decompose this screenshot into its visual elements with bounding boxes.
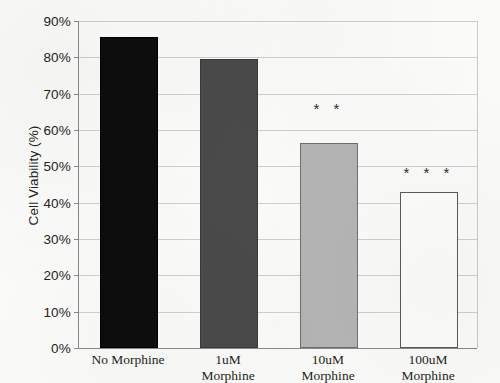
y-tick-mark — [74, 275, 79, 276]
y-tick-mark — [74, 348, 79, 349]
bar — [200, 59, 258, 348]
y-tick-label: 0% — [27, 341, 71, 356]
x-tick-label: 1uMMorphine — [201, 352, 254, 383]
bar — [300, 143, 358, 348]
y-tick-label: 30% — [27, 232, 71, 247]
y-tick-mark — [74, 203, 79, 204]
y-axis-tick-labels: 0%10%20%30%40%50%60%70%80%90% — [27, 0, 71, 383]
y-tick-mark — [74, 130, 79, 131]
y-tick-mark — [74, 166, 79, 167]
x-tick-label: 100uMMorphine — [401, 352, 454, 383]
y-tick-label: 90% — [27, 14, 71, 29]
y-tick-label: 20% — [27, 268, 71, 283]
y-tick-label: 50% — [27, 159, 71, 174]
y-tick-mark — [74, 239, 79, 240]
y-tick-label: 60% — [27, 123, 71, 138]
significance-marker: * * * — [404, 165, 455, 180]
y-tick-label: 40% — [27, 195, 71, 210]
y-tick-mark — [74, 312, 79, 313]
x-tick-label: 10uMMorphine — [301, 352, 354, 383]
axis-baseline — [79, 348, 477, 349]
y-tick-mark — [74, 21, 79, 22]
y-tick-label: 80% — [27, 50, 71, 65]
x-tick-label: No Morphine — [91, 352, 164, 368]
gridline — [79, 21, 477, 22]
y-tick-mark — [74, 94, 79, 95]
y-tick-label: 70% — [27, 86, 71, 101]
bar — [400, 192, 458, 348]
plot-area: * ** * * — [78, 21, 478, 348]
x-axis-tick-labels: No Morphine1uMMorphine10uMMorphine100uMM… — [78, 352, 478, 383]
bar — [100, 37, 158, 348]
chart-figure: Cell Viability (%) 0%10%20%30%40%50%60%7… — [0, 0, 500, 383]
y-tick-label: 10% — [27, 304, 71, 319]
significance-marker: * * — [314, 101, 345, 116]
y-tick-mark — [74, 57, 79, 58]
